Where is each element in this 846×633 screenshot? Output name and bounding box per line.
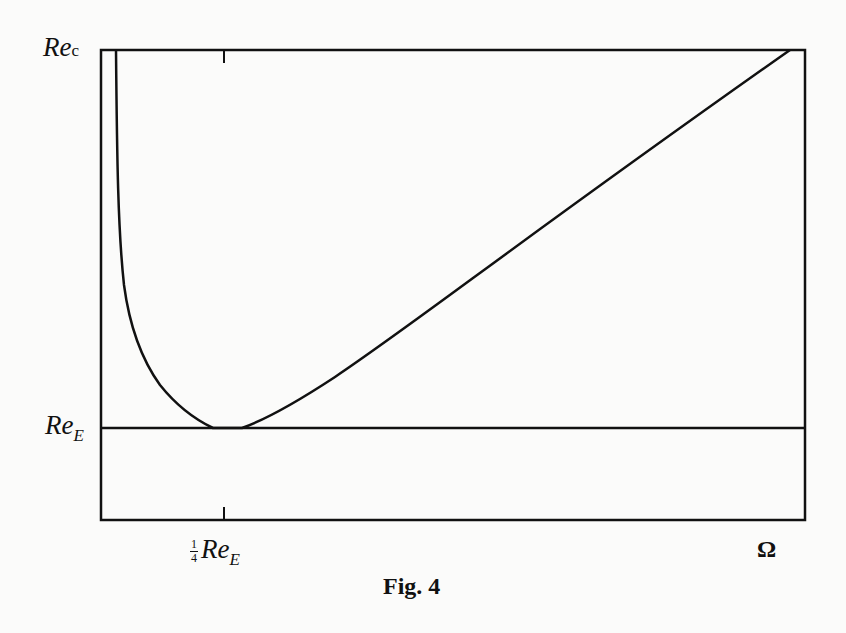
plot-area [0,0,846,633]
x-axis-label-omega: Ω [757,536,776,563]
plot-frame [101,50,805,520]
fraction-one-quarter: 14 [190,539,198,564]
x-tick-label-quarter-re-e: 14ReE [190,534,240,567]
figure-caption: Fig. 4 [383,573,440,600]
y-tick-label-re-e: ReE [45,410,84,441]
critical-curve [116,50,790,428]
y-axis-label-re-c: Rec [43,32,79,63]
